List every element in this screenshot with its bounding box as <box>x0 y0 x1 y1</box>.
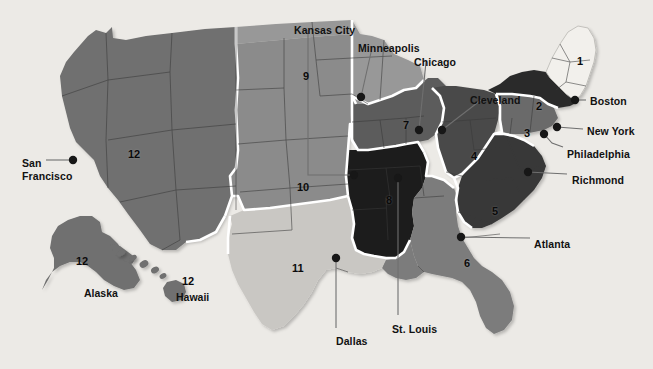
city-label-chicago: Chicago <box>414 56 456 68</box>
city-dot-new-york <box>553 123 561 131</box>
city-dot-philadelphia <box>540 130 548 138</box>
city-label-san-francisco-line-1: San <box>22 157 73 170</box>
city-label-san-francisco: SanFrancisco <box>22 157 73 182</box>
city-dot-cleveland <box>438 126 446 134</box>
district-number-7: 7 <box>403 119 409 131</box>
city-dot-boston <box>571 96 579 104</box>
inset-label-alaska: Alaska <box>84 287 118 299</box>
city-dot-dallas <box>332 254 340 262</box>
district-number-9: 9 <box>303 70 309 82</box>
city-dot-chicago <box>415 126 423 134</box>
city-dot-kansas-city <box>350 171 358 179</box>
city-label-kansas-city: Kansas City <box>294 24 355 36</box>
inset-district-number-alaska: 12 <box>76 255 88 267</box>
city-label-boston: Boston <box>590 95 627 107</box>
district-number-1: 1 <box>577 55 583 67</box>
city-label-richmond: Richmond <box>572 174 624 186</box>
city-label-atlanta: Atlanta <box>534 238 570 250</box>
district-10-shape <box>230 34 352 210</box>
district-number-8: 8 <box>386 194 392 206</box>
city-dot-atlanta <box>457 233 465 241</box>
city-dot-st-louis <box>394 174 402 182</box>
city-label-philadelphia: Philadelphia <box>567 148 630 160</box>
federal-reserve-districts-map: 123456789101112 1212 AlaskaHawaii Kansas… <box>0 0 653 369</box>
district-number-10: 10 <box>297 181 309 193</box>
district-number-5: 5 <box>492 205 498 217</box>
district-number-3: 3 <box>524 127 530 139</box>
district-number-12: 12 <box>128 148 140 160</box>
us-map-graphic <box>0 0 653 369</box>
city-label-cleveland: Cleveland <box>470 94 521 106</box>
city-label-san-francisco-line-2: Francisco <box>22 170 73 183</box>
city-label-new-york: New York <box>587 125 635 137</box>
district-number-4: 4 <box>471 150 477 162</box>
city-dot-richmond <box>524 168 532 176</box>
district-number-11: 11 <box>292 262 304 274</box>
inset-district-number-hawaii: 12 <box>182 275 194 287</box>
inset-label-hawaii: Hawaii <box>176 291 209 303</box>
city-label-minneapolis: Minneapolis <box>358 42 420 54</box>
district-number-2: 2 <box>536 100 542 112</box>
city-label-dallas: Dallas <box>336 335 368 347</box>
city-label-st-louis: St. Louis <box>392 323 437 335</box>
district-number-6: 6 <box>464 257 470 269</box>
city-dot-minneapolis <box>357 93 365 101</box>
